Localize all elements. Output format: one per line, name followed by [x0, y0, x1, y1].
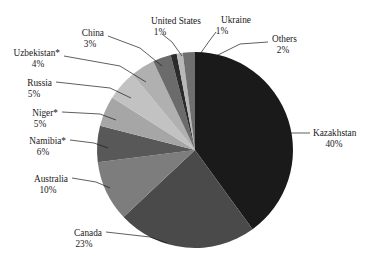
label-kazakhstan-percent: 40%: [325, 139, 342, 149]
pie-slices: [97, 52, 293, 248]
label-united-states-percent: 1%: [154, 27, 167, 37]
label-uzbekistan-name: Uzbekistan*: [14, 48, 61, 58]
label-niger-name: Niger*: [32, 108, 58, 118]
leader-line-united-states: [162, 34, 182, 56]
label-australia-name: Australia: [34, 174, 68, 184]
label-australia-percent: 10%: [39, 185, 56, 195]
label-canada-percent: 23%: [75, 239, 92, 249]
pie-chart-page: Kazakhstan 40% Canada 23% Australia 10% …: [0, 0, 378, 267]
label-kazakhstan-name: Kazakhstan: [313, 128, 357, 138]
label-china-name: China: [82, 28, 104, 38]
pie-chart: Kazakhstan 40% Canada 23% Australia 10% …: [0, 0, 378, 267]
label-uzbekistan-percent: 4%: [32, 59, 45, 69]
label-russia-percent: 5%: [28, 89, 41, 99]
label-ukraine-percent: 1%: [216, 26, 229, 36]
label-namibia-name: Namibia*: [29, 136, 66, 146]
leader-line-ukraine: [200, 32, 216, 54]
label-others-percent: 2%: [277, 45, 290, 55]
label-russia-name: Russia: [27, 78, 52, 88]
label-canada-name: Canada: [74, 228, 102, 238]
label-united-states-name: United States: [151, 16, 201, 26]
label-ukraine-name: Ukraine: [221, 15, 251, 25]
label-china-percent: 3%: [84, 39, 97, 49]
label-others-name: Others: [272, 34, 297, 44]
label-niger-percent: 5%: [34, 119, 47, 129]
label-namibia-percent: 6%: [37, 147, 50, 157]
